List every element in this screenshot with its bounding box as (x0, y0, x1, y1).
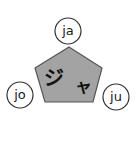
node-jo-label: jo (13, 87, 26, 102)
kana-diagram: ジ ャ ja jo ju (0, 0, 137, 161)
center-kana-ya: ャ (75, 76, 92, 96)
node-ju-label: ju (109, 89, 122, 104)
node-ju: ju (103, 84, 129, 110)
node-ja: ja (55, 18, 81, 44)
center-kana-ji: ジ (44, 66, 64, 90)
node-jo: jo (7, 82, 33, 108)
node-ja-label: ja (61, 23, 74, 38)
